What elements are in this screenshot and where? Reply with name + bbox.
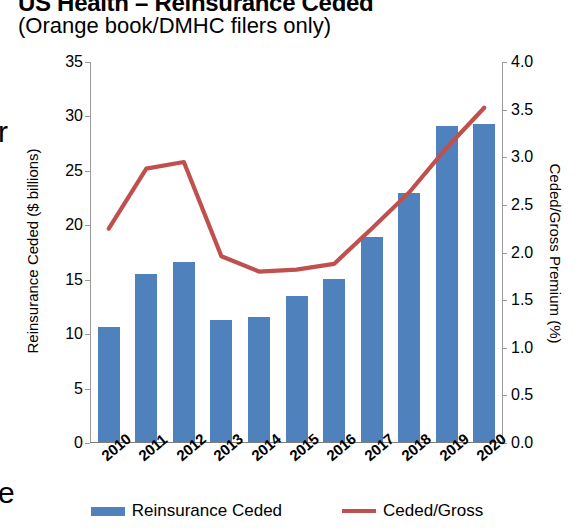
y-axis-left-tick-label: 5: [74, 381, 83, 397]
line-series: [90, 62, 503, 443]
legend-item-ceded-gross[interactable]: Ceded/Gross: [342, 501, 483, 521]
y-axis-left-title: Reinsurance Ceded ($ billions): [24, 154, 41, 354]
y-axis-left-tick-label: 10: [65, 326, 83, 342]
y-axis-right-tick-label: 1.5: [511, 292, 533, 308]
y-axis-right-tick-label: 3.5: [511, 102, 533, 118]
y-axis-left-tick-label: 30: [65, 108, 83, 124]
y-axis-left-tick-label: 15: [65, 272, 83, 288]
cropped-glyph-left-upper: r: [0, 117, 8, 147]
chart-subtitle: (Orange book/DMHC filers only): [18, 13, 331, 39]
legend-item-reinsurance-ceded[interactable]: Reinsurance Ceded: [91, 501, 282, 521]
plot-area: 05101520253035 0.00.51.01.52.02.53.03.54…: [90, 62, 503, 443]
y-axis-left-tick: [85, 443, 90, 444]
y-axis-right-tick-label: 3.0: [511, 149, 533, 165]
chart-legend: Reinsurance CededCeded/Gross: [0, 499, 574, 523]
y-axis-left-tick-label: 25: [65, 163, 83, 179]
y-axis-right-tick-label: 0.5: [511, 387, 533, 403]
y-axis-right-tick-label: 4.0: [511, 54, 533, 70]
chart-figure: US Health – Reinsurance Ceded (Orange bo…: [0, 0, 574, 528]
y-axis-left-tick-label: 0: [74, 435, 83, 451]
y-axis-right-tick-label: 2.0: [511, 245, 533, 261]
legend-bar-swatch-icon: [91, 507, 125, 516]
y-axis-right-tick-label: 2.5: [511, 197, 533, 213]
y-axis-right-tick-label: 0.0: [511, 435, 533, 451]
legend-label: Ceded/Gross: [383, 501, 483, 521]
legend-label: Reinsurance Ceded: [132, 501, 282, 521]
y-axis-right-tick-label: 1.0: [511, 340, 533, 356]
y-axis-left-tick-label: 35: [65, 54, 83, 70]
y-axis-left-tick-label: 20: [65, 217, 83, 233]
legend-line-swatch-icon: [342, 509, 376, 513]
y-axis-right-title: Ceded/Gross Premium (%): [547, 154, 564, 354]
